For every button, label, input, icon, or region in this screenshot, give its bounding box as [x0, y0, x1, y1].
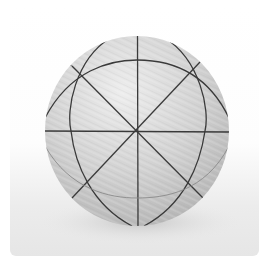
photo-card [10, 6, 259, 256]
temari-ball-image [10, 6, 259, 256]
